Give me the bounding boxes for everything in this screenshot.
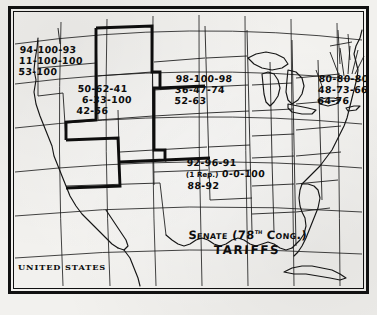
vote-row-3: 42-56 xyxy=(76,105,132,116)
region-label-pacific-northwest: 94-100-93 11-100-100 53-100 xyxy=(18,44,84,78)
map-title-line-1: Senate (78th Cong.) xyxy=(188,228,307,242)
vote-row-3: 88-92 xyxy=(187,180,265,191)
republican-note: (1 Rep.) xyxy=(186,170,219,179)
country-label: UNITED STATES xyxy=(18,262,106,272)
vote-row-3: 52-63 xyxy=(174,95,231,106)
vote-row-3: 64-76 xyxy=(317,95,368,106)
map-title: Senate (78th Cong.) TARIFFS xyxy=(187,228,307,257)
vote-row-1: 98-100-98 xyxy=(175,73,232,84)
vote-row-2: 36-47-74 xyxy=(175,84,232,95)
map-title-subject: TARIFFS xyxy=(187,243,306,257)
vote-row-2: (1 Rep.) 0-0-100 xyxy=(186,168,266,180)
region-label-plains-midwest: 98-100-98 36-47-74 52-63 xyxy=(174,73,233,107)
map-title-chamber: Senate (78 xyxy=(188,228,255,242)
vote-row-1: 80-80-80 xyxy=(318,73,369,84)
vote-row-1: 94-100-93 xyxy=(19,44,83,55)
region-label-south: 92-96-91 (1 Rep.) 0-0-100 88-92 xyxy=(185,157,266,192)
vote-row-2: 6-33-100 xyxy=(82,94,133,105)
vote-row-1: 92-96-91 xyxy=(186,157,266,168)
vote-row-2-values: 0-0-100 xyxy=(222,168,266,179)
vote-row-1: 50-62-41 xyxy=(77,83,133,94)
vote-row-2: 11-100-100 xyxy=(19,55,83,66)
vote-row-2: 48-73-66 xyxy=(318,84,369,95)
region-label-northeast: 80-80-80 48-73-66 64-76 xyxy=(317,73,369,107)
map-title-congress-close: Cong.) xyxy=(262,228,308,242)
vote-row-3: 53-100 xyxy=(18,66,82,77)
region-label-mountain: 50-62-41 6-33-100 42-56 xyxy=(76,83,133,117)
map-figure: 94-100-93 11-100-100 53-100 50-62-41 6-3… xyxy=(0,0,377,315)
